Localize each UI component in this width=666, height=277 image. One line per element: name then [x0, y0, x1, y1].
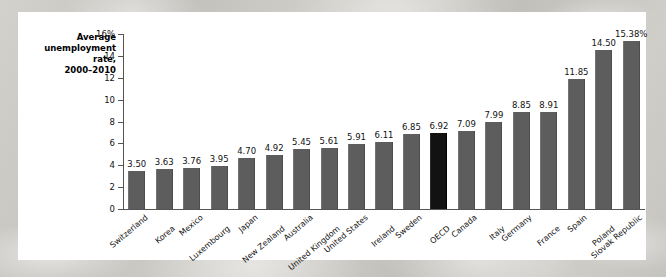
x-axis-label: Korea — [154, 224, 177, 245]
y-axis-tick-label: 2 — [110, 182, 115, 192]
bar-value-label: 5.45 — [292, 137, 311, 147]
bar[interactable] — [266, 155, 283, 209]
bar-value-label: 11.85 — [564, 67, 588, 77]
x-axis-label: Japan — [237, 213, 260, 234]
bar-item[interactable]: 8.85 — [513, 34, 530, 209]
y-axis-tick-label: 8 — [110, 117, 115, 127]
bar-value-label: 3.63 — [155, 157, 174, 167]
x-axis-label: Luxembourg — [188, 224, 232, 263]
y-axis-tick-label: 14 — [104, 51, 115, 61]
bar-item[interactable]: 6.85 — [403, 34, 420, 209]
bar-value-label: 6.11 — [375, 130, 394, 140]
bar-value-label: 8.85 — [512, 100, 531, 110]
bar[interactable] — [183, 168, 200, 209]
bar[interactable] — [595, 50, 612, 209]
y-axis-tick — [118, 209, 123, 210]
bar[interactable] — [513, 112, 530, 209]
bar-item[interactable]: 8.91 — [540, 34, 557, 209]
bar[interactable] — [458, 131, 475, 209]
plot-area: 0246810121416% 3.503.633.763.954.704.925… — [123, 34, 645, 209]
bar-value-label: 6.85 — [402, 122, 421, 132]
bar[interactable] — [211, 166, 228, 209]
y-axis-tick-label: 0 — [110, 204, 115, 214]
bar-item[interactable]: 6.92 — [430, 34, 447, 209]
bar-value-label: 3.95 — [210, 154, 229, 164]
bar-value-label: 5.91 — [347, 132, 366, 142]
bar-value-label: 4.92 — [265, 143, 284, 153]
x-axis-labels: SwitzerlandKoreaMexicoLuxembourgJapanNew… — [123, 211, 645, 271]
bar-item[interactable]: 15.38% — [623, 34, 640, 209]
bar[interactable] — [485, 122, 502, 209]
x-axis-label: France — [535, 224, 561, 248]
bar-item[interactable]: 5.91 — [348, 34, 365, 209]
bar-item[interactable]: 5.61 — [321, 34, 338, 209]
bar-value-label: 8.91 — [539, 100, 558, 110]
y-axis-tick-label: 12 — [104, 73, 115, 83]
bar[interactable] — [623, 41, 640, 209]
x-axis-label: Sweden — [394, 213, 424, 240]
bar[interactable] — [348, 144, 365, 209]
bar-item[interactable]: 4.92 — [266, 34, 283, 209]
bar-item[interactable]: 7.09 — [458, 34, 475, 209]
x-axis-label: OECD — [428, 224, 451, 246]
bar-item[interactable]: 6.11 — [375, 34, 392, 209]
bar-item[interactable]: 11.85 — [568, 34, 585, 209]
bar-item[interactable]: 4.70 — [238, 34, 255, 209]
x-axis-label: New Zealand — [241, 224, 287, 265]
bar-value-label: 4.70 — [237, 146, 256, 156]
y-axis-tick-label: 16% — [96, 29, 115, 39]
bar[interactable] — [568, 79, 585, 209]
y-axis-tick-label: 10 — [104, 95, 115, 105]
bar-value-label: 6.92 — [429, 121, 448, 131]
x-axis-line — [123, 209, 645, 210]
y-axis-tick-label: 6 — [110, 138, 115, 148]
bar-value-label: 5.61 — [320, 136, 339, 146]
x-axis-label: Switzerland — [108, 213, 150, 250]
bar[interactable] — [375, 142, 392, 209]
y-axis-tick-label: 4 — [110, 160, 115, 170]
x-axis-label: Australia — [281, 213, 314, 243]
x-axis-label: Canada — [450, 213, 479, 239]
bar[interactable] — [403, 134, 420, 209]
bar[interactable] — [540, 112, 557, 209]
bar-item[interactable]: 14.50 — [595, 34, 612, 209]
bar[interactable] — [128, 171, 145, 209]
bar-highlight[interactable] — [430, 133, 447, 209]
bar-item[interactable]: 3.76 — [183, 34, 200, 209]
figure-panel: Average unemployment rate, 2000–2010 024… — [18, 12, 646, 260]
x-axis-label: Mexico — [177, 213, 204, 238]
bar-series: 3.503.633.763.954.704.925.455.615.916.11… — [123, 34, 645, 209]
bar-item[interactable]: 3.95 — [211, 34, 228, 209]
bar-item[interactable]: 5.45 — [293, 34, 310, 209]
bar[interactable] — [321, 148, 338, 209]
bar-item[interactable]: 3.50 — [128, 34, 145, 209]
bar-value-label: 15.38% — [615, 29, 647, 39]
x-axis-label: Spain — [566, 213, 589, 234]
bar[interactable] — [293, 149, 310, 209]
bar-value-label: 7.09 — [457, 119, 476, 129]
bar-value-label: 3.76 — [182, 156, 201, 166]
bar-value-label: 14.50 — [592, 38, 616, 48]
bar-item[interactable]: 7.99 — [485, 34, 502, 209]
bar-value-label: 7.99 — [484, 110, 503, 120]
x-axis-label: Ireland — [370, 224, 397, 249]
bar-value-label: 3.50 — [127, 159, 146, 169]
bar[interactable] — [238, 158, 255, 209]
bar-item[interactable]: 3.63 — [156, 34, 173, 209]
bar[interactable] — [156, 169, 173, 209]
